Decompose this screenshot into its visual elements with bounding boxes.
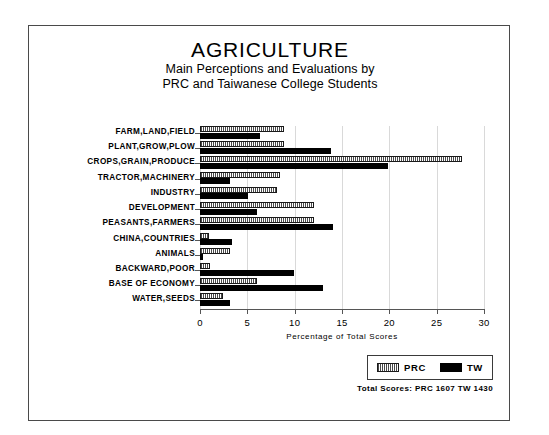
category-label: BASE OF ECONOMY (109, 279, 195, 288)
x-axis-tick (484, 309, 485, 314)
bar-row: CHINA,COUNTRIES (29, 233, 511, 248)
bar-prc (200, 187, 277, 193)
x-axis-tick (389, 309, 390, 314)
bar-tw (200, 209, 257, 215)
bar-row: ANIMALS (29, 248, 511, 263)
bar-row: FARM,LAND,FIELD (29, 126, 511, 141)
category-label: CROPS,GRAIN,PRODUCE (87, 157, 195, 166)
bar-row: BASE OF ECONOMY (29, 278, 511, 293)
bar-tw (200, 239, 232, 245)
category-label: FARM,LAND,FIELD (116, 127, 195, 136)
bar-tw (200, 224, 333, 230)
x-axis-tick (295, 309, 296, 314)
bar-prc (200, 217, 314, 223)
bar-prc (200, 156, 462, 162)
bar-prc (200, 278, 257, 284)
bar-prc (200, 263, 210, 269)
bar-row: DEVELOPMENT (29, 202, 511, 217)
bar-prc (200, 293, 223, 299)
hatched-swatch-icon (377, 363, 399, 372)
bar-row: CROPS,GRAIN,PRODUCE (29, 156, 511, 171)
bar-row: WATER,SEEDS (29, 293, 511, 308)
bar-tw (200, 285, 323, 291)
bar-row: PLANT,GROW,PLOW (29, 141, 511, 156)
category-label: ANIMALS (155, 249, 195, 258)
legend-item-prc: PRC (377, 362, 426, 373)
category-label: PEASANTS,FARMERS (103, 218, 196, 227)
x-axis-tick-label: 15 (327, 317, 357, 328)
x-axis-tick (437, 309, 438, 314)
category-label: CHINA,COUNTRIES (113, 234, 195, 243)
bar-row: TRACTOR,MACHINERY (29, 172, 511, 187)
bar-prc (200, 172, 280, 178)
category-label: BACKWARD,POOR (115, 264, 195, 273)
x-axis-tick (342, 309, 343, 314)
x-axis-tick-label: 25 (422, 317, 452, 328)
bar-row: PEASANTS,FARMERS (29, 217, 511, 232)
solid-black-swatch-icon (440, 363, 462, 372)
bar-prc (200, 248, 230, 254)
chart-legend: PRC TW (367, 355, 493, 380)
bar-tw (200, 254, 203, 260)
category-label: INDUSTRY (151, 188, 195, 197)
bar-tw (200, 178, 230, 184)
bar-tw (200, 133, 260, 139)
category-label: PLANT,GROW,PLOW (108, 142, 195, 151)
category-label: TRACTOR,MACHINERY (98, 173, 195, 182)
bar-tw (200, 193, 248, 199)
bar-row: INDUSTRY (29, 187, 511, 202)
category-label: DEVELOPMENT (129, 203, 195, 212)
x-axis-tick-label: 0 (185, 317, 215, 328)
bar-tw (200, 163, 388, 169)
legend-item-tw: TW (440, 362, 483, 373)
x-axis-tick (200, 309, 201, 314)
chart-frame: AGRICULTURE Main Perceptions and Evaluat… (28, 25, 510, 421)
bar-row: BACKWARD,POOR (29, 263, 511, 278)
legend-label-tw: TW (467, 362, 483, 373)
x-axis-tick-label: 30 (469, 317, 499, 328)
totals-annotation: Total Scores: PRC 1607 TW 1430 (29, 384, 493, 393)
bar-prc (200, 141, 284, 147)
bar-tw (200, 270, 294, 276)
bar-prc (200, 233, 209, 239)
legend-label-prc: PRC (404, 362, 426, 373)
category-label: WATER,SEEDS (132, 294, 195, 303)
x-axis-tick-label: 20 (374, 317, 404, 328)
bar-prc (200, 126, 284, 132)
bar-tw (200, 148, 331, 154)
bar-prc (200, 202, 314, 208)
x-axis-tick-label: 10 (280, 317, 310, 328)
x-axis-tick (247, 309, 248, 314)
x-axis-label: Percentage of Total Scores (200, 332, 484, 341)
x-axis-tick-label: 5 (232, 317, 262, 328)
bar-tw (200, 300, 230, 306)
